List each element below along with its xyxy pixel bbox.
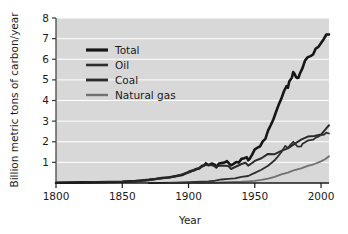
x-tick-label: 1850 bbox=[109, 190, 136, 202]
y-tick-label: 5 bbox=[42, 73, 49, 85]
x-tick-label: 1900 bbox=[175, 190, 202, 202]
y-axis-title: Billion metric tons of carbon/year bbox=[8, 12, 20, 188]
y-tick-label: 7 bbox=[42, 32, 49, 44]
y-tick-label: 3 bbox=[42, 115, 49, 127]
y-tick-label: 1 bbox=[42, 156, 49, 168]
chart-figure: 12345678 18001850190019502000 Year Billi… bbox=[0, 0, 348, 234]
x-tick-label: 1950 bbox=[241, 190, 268, 202]
x-tick-label: 1800 bbox=[43, 190, 70, 202]
carbon-emissions-line-chart: 12345678 18001850190019502000 Year Billi… bbox=[0, 0, 348, 234]
y-tick-label: 4 bbox=[42, 94, 49, 106]
y-tick-label: 6 bbox=[42, 53, 49, 65]
legend-label-oil: Oil bbox=[115, 59, 129, 71]
legend-label-natural-gas: Natural gas bbox=[115, 89, 176, 101]
x-tick-label: 2000 bbox=[308, 190, 335, 202]
legend-label-coal: Coal bbox=[115, 74, 138, 86]
y-tick-label: 2 bbox=[42, 135, 49, 147]
y-tick-label: 8 bbox=[42, 12, 49, 24]
legend-label-total: Total bbox=[114, 44, 140, 56]
x-axis-title: Year bbox=[178, 214, 202, 226]
